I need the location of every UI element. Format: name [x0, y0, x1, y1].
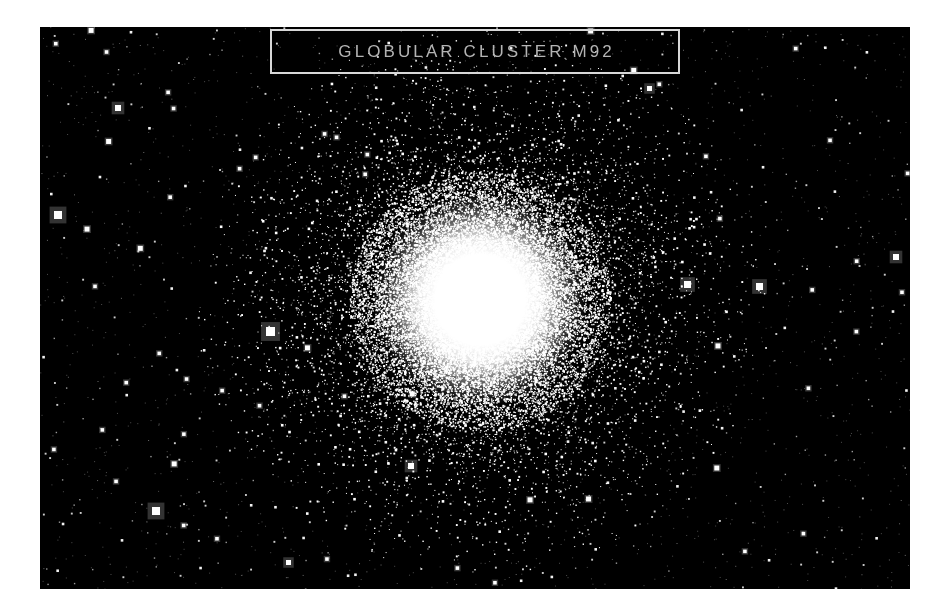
star-field-canvas: [40, 27, 910, 589]
title-plate: GLOBULAR CLUSTER M92: [270, 29, 680, 74]
page-title: GLOBULAR CLUSTER M92: [335, 43, 615, 60]
page-root: GLOBULAR CLUSTER M92: [0, 0, 947, 614]
astrophoto-globular-cluster: GLOBULAR CLUSTER M92: [40, 27, 910, 589]
